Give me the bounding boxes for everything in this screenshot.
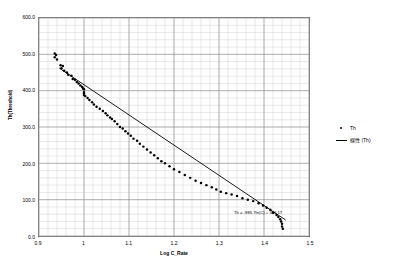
x-tick-label: 1.1	[117, 240, 141, 246]
legend-label-trendline: 線性 (Th)	[348, 137, 371, 143]
legend-item-th: Th	[334, 122, 390, 134]
x-tick-label: 1	[71, 240, 95, 246]
x-tick-label: 1.3	[207, 240, 231, 246]
y-tick-label: 300.0	[0, 124, 35, 130]
y-tick-label: 500.0	[0, 51, 35, 57]
scatter-marker-icon	[334, 127, 348, 129]
x-tick-label: 1.2	[162, 240, 186, 246]
plot-area	[38, 17, 310, 237]
x-axis-title: Log C_Rate	[124, 250, 224, 256]
chart-container: 600.0500.0400.0300.0200.0100.00.0 Th(Thr…	[0, 0, 394, 266]
x-tick-label: 0.9	[26, 240, 50, 246]
trendline-equation-annotation: Th = -985.7ln(C) + 386.17	[234, 210, 282, 215]
x-tick-label: 1.4	[253, 240, 277, 246]
data-layer	[39, 18, 309, 236]
legend: Th 線性 (Th)	[334, 122, 390, 146]
y-tick-label: 200.0	[0, 161, 35, 167]
x-tick-label: 1.5	[298, 240, 322, 246]
line-marker-icon	[334, 140, 348, 141]
y-tick-label: 600.0	[0, 14, 35, 20]
y-tick-label: 100.0	[0, 197, 35, 203]
y-axis-title: Th(Threshold)	[8, 60, 14, 120]
legend-item-trendline: 線性 (Th)	[334, 134, 390, 146]
legend-label-th: Th	[348, 125, 356, 131]
y-tick-label: 400.0	[0, 87, 35, 93]
